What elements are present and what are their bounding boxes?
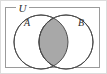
set-label-b: B (78, 17, 84, 28)
venn-diagram-figure: U A B (0, 0, 107, 74)
venn-diagram-canvas: U A B (0, 0, 107, 74)
set-label-a: A (23, 17, 31, 28)
universe-label: U (19, 2, 28, 14)
